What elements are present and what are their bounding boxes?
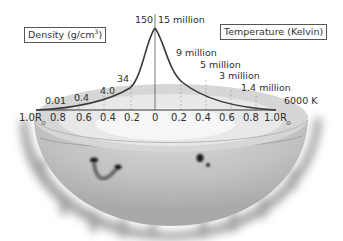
tick-right-0-6: 0.6	[219, 112, 235, 123]
temperature-label-5m: 5 million	[200, 59, 241, 70]
tick-left-0-4: 0.4	[100, 112, 116, 123]
temperature-legend: Temperature (Kelvin)	[220, 24, 327, 40]
temperature-label-15m: 15 million	[158, 14, 205, 25]
temperature-legend-text: Temperature (Kelvin)	[224, 26, 323, 37]
temperature-label-9m: 9 million	[176, 47, 217, 58]
density-label-0-4: 0.4	[74, 92, 89, 103]
temperature-label-1-4m: 1.4 million	[241, 82, 291, 93]
tick-right-1-0: 1.0R	[264, 112, 287, 123]
temperature-label-6000k: 6000 K	[284, 95, 318, 106]
tick-right-0-8: 0.8	[243, 112, 259, 123]
density-label-34: 34	[117, 73, 129, 84]
solar-symbol-left: ⊙	[41, 119, 46, 126]
density-label-0-01: 0.01	[45, 95, 66, 106]
solar-interior-diagram: 0.01 0.4 4.0 34 150 15 million 9 million…	[0, 0, 343, 241]
core	[95, 108, 235, 140]
density-label-4-0: 4.0	[100, 85, 115, 96]
solar-symbol-right: ⊙	[286, 119, 291, 126]
density-legend: Density (g/cm3)	[24, 27, 106, 43]
tick-left-0-6: 0.6	[76, 112, 92, 123]
tick-right-0-4: 0.4	[195, 112, 211, 123]
density-label-150: 150	[135, 14, 153, 25]
tick-left-0-8: 0.8	[50, 112, 66, 123]
tick-center-0: 0	[152, 112, 158, 123]
tick-left-1-0: 1.0R	[19, 112, 42, 123]
density-legend-close: )	[98, 29, 102, 40]
temperature-label-3m: 3 million	[219, 70, 260, 81]
tick-right-0-2: 0.2	[171, 112, 187, 123]
tick-left-0-2: 0.2	[124, 112, 140, 123]
density-legend-text: Density (g/cm	[28, 29, 95, 40]
